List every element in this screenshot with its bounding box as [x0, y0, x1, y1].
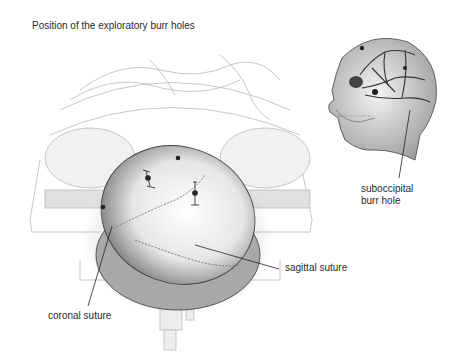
burr-hole-3: [176, 156, 181, 161]
burr-hole-4: [101, 205, 106, 210]
suboccipital-label: suboccipital burr hole: [361, 183, 413, 207]
sagittal-suture-label: sagittal suture: [285, 262, 347, 274]
suboccipital-label-line2: burr hole: [361, 195, 413, 207]
coronal-suture-label: coronal suture: [48, 310, 111, 322]
illustration: [0, 0, 452, 356]
suboccipital-label-line1: suboccipital: [361, 183, 413, 195]
inset-view: [329, 38, 437, 160]
